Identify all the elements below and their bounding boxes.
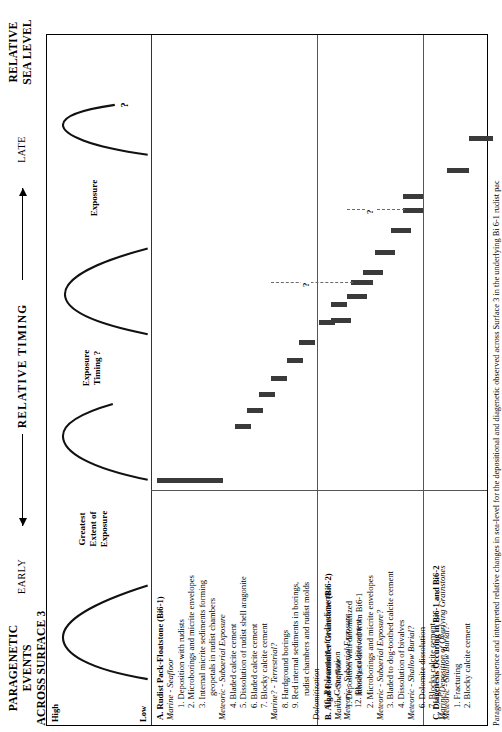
section-a-subheading-marine: Marine - Seafloor: [165, 493, 175, 720]
section-b-item-4: 4. Dissolution of bivalves: [396, 493, 406, 720]
section-b: B. Algal Foraminifer Grainstone (Bi6-2) …: [323, 493, 448, 720]
section-a-item-3-cont: geopetals in rudist chambers: [207, 493, 217, 720]
section-a-subheading-marine-terrestrial: Marine? - Terrestrial?: [269, 493, 279, 720]
section-c-item-2: 2. Blocky calcite cement: [462, 493, 472, 720]
section-c: C. Diagenesis Occuring in Bi6-1 and Bi6-…: [431, 493, 473, 720]
timing-bar-b2: [347, 294, 367, 299]
annotation-line-1: Exposure: [89, 161, 100, 235]
timing-bar-a11: [331, 302, 347, 307]
section-a-item-8: 8. Hardground borings: [280, 493, 290, 720]
timing-bar-a4: [235, 424, 251, 429]
timing-bar-a7: [271, 376, 287, 381]
sea-level-column-title: RELATIVE SEA LEVEL: [6, 0, 34, 104]
timing-dashed-a12: [271, 282, 353, 283]
section-a-subheading-meteoric-1: Meteoric - Subaerial Exposure: [217, 493, 227, 720]
section-a-item-6: 6. Bladed calcite cement: [249, 493, 259, 720]
annotation-line-1: Greatest: [77, 483, 88, 575]
timing-bar-b4: [375, 250, 395, 255]
section-a-item-1: 1. Deposition with rudists: [176, 493, 186, 720]
timing-bar-b3: [363, 270, 383, 275]
section-b-item-3: 3. Bladed to dog-toothed calcite cement: [385, 493, 395, 720]
rsl-title-line2: SEA LEVEL: [20, 0, 34, 104]
annotation-line-2: Extent of: [88, 483, 99, 575]
timing-dashed-b7: [347, 209, 405, 210]
timing-lane: ? ?: [151, 35, 487, 491]
section-a-heading: A. Rudist Pack-Floatstone (Bi6-1): [155, 493, 165, 720]
section-c-heading: C. Diagenesis Occuring in Bi6-1 and Bi6-…: [431, 493, 441, 720]
timing-bar-b6: [391, 228, 411, 233]
section-a-item-4: 4. Bladed calcite cement: [228, 493, 238, 720]
relative-timing-axis: EARLY RELATIVE TIMING LATE: [6, 132, 40, 600]
sea-level-annotation-question: ?: [119, 95, 130, 115]
sea-level-panel: Low High Greatest Extent of Exposure Exp…: [47, 35, 151, 725]
section-a-item-9: 9. Red internal sediments in borings,: [290, 493, 300, 720]
section-b-heading: B. Algal Foraminifer Grainstone (Bi6-2): [323, 493, 333, 720]
section-c-item-1: 1. Fracturing: [452, 493, 462, 720]
section-c-subheading-meteoric: Meteoric - Shallow Burial?: [441, 493, 451, 720]
annotation-line-1: Exposure: [81, 333, 92, 403]
section-b-subheading-marine: Marine - Seafloor: [333, 493, 343, 720]
timing-bar-c1: [447, 168, 469, 173]
section-a-item-2: 2. Microborings and micrite envelopes: [186, 493, 196, 720]
timing-bar-a9: [299, 340, 315, 345]
arrow-left-icon: [22, 434, 23, 526]
timing-bar-b7: [403, 208, 423, 213]
timing-question-a12: ?: [301, 282, 311, 289]
section-b-item-6: 6. Dolomite dissolution: [417, 493, 427, 720]
timing-bar-a8: [287, 358, 303, 363]
events-column-title: PARAGENETIC EVENTS ACROSS SURFACE 3: [6, 604, 48, 732]
axis-label-late: LATE: [16, 136, 27, 163]
arrow-right-icon: [22, 188, 23, 280]
sea-level-annotation-exposure-timing: Exposure Timing ?: [81, 333, 103, 403]
timing-bar-a12: [351, 280, 373, 285]
sea-level-annotation-greatest-exposure: Greatest Extent of Exposure: [77, 483, 110, 575]
section-b-subheading-meteoric-1: Meteoric - Subaerial Exposure?: [375, 493, 385, 720]
rsl-title-line1: RELATIVE: [6, 0, 20, 104]
section-a-item-9-cont: rudist chambers and rudist molds: [301, 493, 311, 720]
timing-bar-b8: [403, 194, 423, 199]
timing-bar-a2: [179, 478, 201, 483]
section-a-item-5: 5. Dissolution of rudist shell aragonite: [238, 493, 248, 720]
figure-caption: Paragenetic sequence and interpreted rel…: [492, 6, 502, 726]
timing-bar-a3: [201, 478, 223, 483]
section-a-subheading-dolomitization: Dolomitization: [311, 493, 321, 720]
section-a-item-7: 7. Blocky calcite cement: [259, 493, 269, 720]
timing-bar-c2: [469, 136, 493, 141]
section-b-item-2: 2. Microborings and micrite envelopes: [365, 493, 375, 720]
chart-frame: Low High Greatest Extent of Exposure Exp…: [46, 34, 488, 726]
section-b-item-1: 1. Deposition with dolomitized: [344, 493, 354, 720]
sea-level-annotation-exposure: Exposure: [89, 161, 100, 235]
timing-bar-b1: [331, 318, 351, 323]
timing-question-b7: ?: [365, 209, 375, 216]
events-title-line1: PARAGENETIC EVENTS: [6, 604, 34, 732]
section-b-subheading-meteoric-2: Meteoric - Shallow Burial?: [406, 493, 416, 720]
section-b-item-1-cont: lithoclasts derived from Bi6-1: [354, 493, 364, 720]
annotation-line-1: ?: [119, 95, 130, 115]
timing-bar-a6: [259, 392, 275, 397]
annotation-line-2: Timing ?: [92, 333, 103, 403]
timing-bar-a1: [157, 478, 179, 483]
timing-bar-a5: [247, 408, 263, 413]
section-a-item-3: 3. Internal micrite sediments forming: [197, 493, 207, 720]
annotation-line-3: Exposure: [99, 483, 110, 575]
events-text-column: A. Rudist Pack-Floatstone (Bi6-1) Marine…: [151, 491, 487, 725]
